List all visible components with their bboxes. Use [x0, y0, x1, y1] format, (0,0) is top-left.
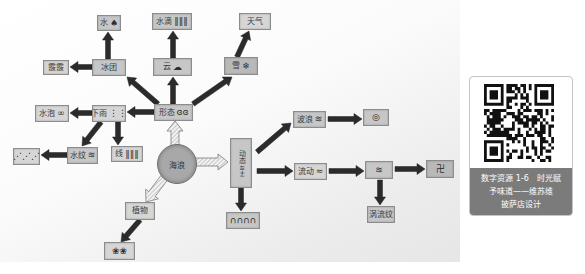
node-coral: ❀❀	[104, 242, 135, 260]
node-label: 雪	[232, 62, 240, 70]
spiral-icon: ◎	[372, 113, 380, 122]
node-plant: 植物	[125, 202, 155, 220]
node-label: 冰团	[101, 64, 117, 72]
cloud-icon: ☁	[173, 63, 182, 72]
waves-icon: ≋	[375, 166, 383, 175]
snowflake-icon: ❄	[242, 62, 250, 71]
lines-icon: ‖‖‖	[125, 150, 139, 159]
rain-icon: ⋮⋮	[109, 109, 126, 118]
node-hail: 霰霰	[43, 60, 69, 75]
arrow-cloud-to-droplet	[168, 31, 179, 58]
node-flow: 流动 ≈	[294, 163, 327, 180]
node-label: 线	[115, 150, 123, 158]
center-node: 海浪	[157, 144, 197, 184]
node-label: 波浪	[297, 116, 313, 124]
node-label: 形态	[159, 109, 175, 117]
node-label: 下雨	[92, 110, 107, 118]
arrow-motion-to-wave	[255, 123, 291, 154]
node-vortex: 涡流纹	[367, 206, 395, 223]
wave-icon: ≋	[315, 115, 323, 124]
swirl-icon: ɞɞ	[177, 108, 189, 117]
arrow-ice-to-water	[103, 32, 114, 59]
node-cloud: 云 ☁	[153, 58, 192, 76]
qr-card[interactable]: 数字资源 1-6 时光赋 予味道——维苏维 披萨店设计	[469, 76, 573, 216]
arrow-wave-to-spiral	[328, 114, 362, 125]
arrow-ripple-to-grass	[41, 150, 67, 161]
arrow-plant-to-coral	[121, 218, 142, 242]
coral-icon: ❀❀	[112, 247, 127, 256]
arrow-rain-to-line	[113, 122, 124, 145]
node-label: 动态	[238, 150, 245, 164]
center-node-label: 海浪	[169, 159, 185, 170]
node-form: 形态 ɞɞ	[154, 104, 193, 121]
flow-icon: ≈	[316, 167, 324, 176]
water-drop-icon: ♠	[110, 19, 118, 28]
qr-caption-line: 予味道——维苏维	[489, 185, 553, 198]
droplets-icon: ‖‖‖	[174, 17, 188, 26]
node-waves: ≋	[365, 161, 393, 179]
arrow-form-to-snow	[192, 77, 232, 106]
arrow-motion-to-flow	[257, 166, 293, 177]
arrow-ice-to-hail	[70, 62, 92, 73]
node-snow: 雪 ❄	[224, 57, 258, 75]
arrow-motion-to-arch	[236, 188, 247, 211]
node-rain: 下雨 ⋮⋮	[92, 105, 126, 122]
swastika-pattern-icon: 卍	[436, 165, 445, 174]
qr-code-icon[interactable]	[484, 84, 554, 162]
node-ripple: 水纹 ≋	[67, 147, 98, 164]
arrow-form-to-ice	[127, 77, 160, 106]
qr-caption: 数字资源 1-6 时光赋 予味道——维苏维 披萨店设计	[470, 168, 572, 215]
arrow-snow-to-weather	[235, 31, 251, 58]
node-label: 流动	[298, 168, 314, 176]
arrow-waves-to-vortex	[375, 180, 386, 205]
arrow-form-to-rain	[127, 107, 154, 118]
node-line: 线 ‖‖‖	[111, 146, 143, 162]
arrow-rain-to-bubble	[70, 108, 92, 119]
node-arch: ∩∩∩∩	[226, 212, 260, 229]
arches-icon: ∩∩∩∩	[230, 216, 256, 225]
qr-modules	[484, 84, 554, 162]
bubble-icon: ∞	[57, 109, 65, 118]
grass-icon: ⋰⋰⋰	[13, 152, 40, 161]
node-swastika: 卍	[426, 160, 454, 178]
arrow-rain-to-ripple	[82, 120, 103, 146]
qr-caption-line: 数字资源 1-6 时光赋	[481, 172, 561, 185]
node-grass: ⋰⋰⋰	[13, 148, 40, 165]
hatched-arrow-center-to-motion	[194, 154, 228, 170]
node-label: 云	[163, 63, 171, 71]
node-droplet: 水滴 ‖‖‖	[152, 13, 192, 30]
node-label: 水	[100, 19, 108, 27]
node-weather: 天气	[239, 13, 271, 30]
node-wave: 波浪 ≋	[293, 111, 326, 128]
node-spiral: ◎	[363, 109, 389, 126]
node-bubble: 水泡 ∞	[35, 105, 69, 122]
node-label: 霰霰	[48, 64, 64, 72]
qr-caption-line: 披萨店设计	[501, 198, 541, 211]
wavy-lines-icon: ≀≀≀+≀	[238, 165, 245, 176]
node-label: 天气	[247, 18, 263, 26]
node-label: 植物	[132, 207, 148, 215]
node-motion: 动态 ≀≀≀+≀	[230, 138, 252, 188]
node-label: 水纹	[70, 152, 86, 160]
arrow-flow-to-waves	[329, 166, 364, 177]
node-water: 水 ♠	[97, 15, 121, 31]
node-label: 水泡	[39, 110, 55, 118]
node-ice: 冰团	[92, 59, 126, 76]
arrow-form-to-cloud	[168, 77, 179, 104]
hatched-arrow-center-to-form	[167, 121, 183, 146]
node-label: 涡流纹	[369, 211, 393, 219]
node-label: 水滴	[156, 18, 172, 26]
ripple-icon: ≋	[88, 151, 96, 160]
arrow-waves-to-swastika	[395, 164, 425, 175]
